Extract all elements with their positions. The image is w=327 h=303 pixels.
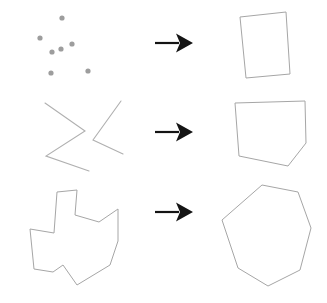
- point-dot: [59, 15, 64, 20]
- figure-root: [0, 0, 327, 303]
- convex-hull-diagram: [0, 0, 327, 303]
- point-dot: [69, 41, 74, 46]
- point-dot: [37, 35, 42, 40]
- point-dot: [58, 46, 63, 51]
- figure-background: [0, 0, 327, 303]
- point-dot: [49, 49, 54, 54]
- point-dot: [85, 68, 90, 73]
- point-dot: [48, 70, 53, 75]
